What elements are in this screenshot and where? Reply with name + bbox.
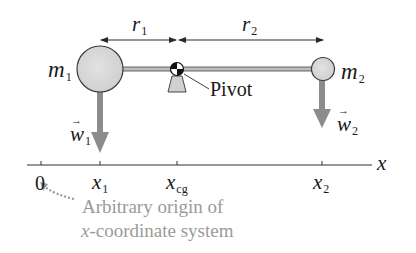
axis-name-x: x — [377, 153, 386, 174]
label-w2: w2 — [337, 114, 358, 135]
origin-pointer-arrow — [40, 182, 74, 199]
pivot-support-icon — [168, 76, 186, 92]
x-axis — [27, 161, 372, 165]
label-r1: r1 — [132, 14, 147, 35]
weight-arrow-w1 — [91, 90, 109, 153]
label-m1: m1 — [48, 58, 72, 81]
annotation-line-1: Arbitrary origin of — [82, 197, 223, 216]
label-pivot: Pivot — [210, 79, 252, 99]
cg-marker-icon — [171, 63, 184, 76]
label-w1: w1 — [70, 124, 91, 145]
tick-label-x1: x1 — [92, 172, 108, 193]
tick-label-xcg: xcg — [166, 172, 188, 193]
label-r2: r2 — [242, 14, 257, 35]
pivot-leader-line — [184, 74, 209, 89]
tick-label-x2: x2 — [313, 172, 329, 193]
weight-arrow-w2 — [313, 79, 331, 128]
label-m2: m2 — [341, 60, 365, 83]
mass-m1-ball — [77, 46, 123, 92]
annotation-line-2: x-coordinate system — [81, 221, 233, 240]
tick-label-origin: 0 — [35, 173, 45, 193]
rod — [110, 67, 316, 71]
mass-m2-ball — [312, 58, 335, 81]
